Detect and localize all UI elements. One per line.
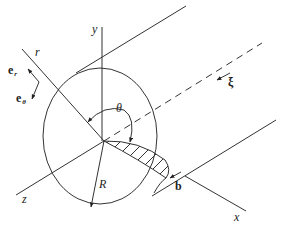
r-axis-label: r: [35, 45, 40, 59]
line-direction-label: ξ: [228, 75, 234, 89]
theta-label: θ: [116, 101, 122, 115]
unit-vector-r-label: er: [8, 63, 17, 78]
z-axis-label: z: [21, 192, 27, 206]
x-axis: [185, 176, 246, 211]
r-axis: [22, 49, 104, 141]
burgers-vector-arrow: [170, 172, 181, 178]
x-axis-label: x: [233, 210, 240, 224]
y-axis-label: y: [91, 22, 98, 36]
z-axis: [16, 141, 104, 195]
radius-arrow: [91, 141, 104, 207]
unit-vector-r-arrow: [28, 69, 39, 82]
burgers-vector-label: b: [175, 179, 182, 193]
dislocation-cylinder-diagram: y r θ R z x b ξ er eθ: [0, 0, 282, 229]
theta-arc: [88, 109, 132, 143]
cylinder-bottom-line: [152, 120, 276, 196]
unit-vector-theta-arrow: [32, 82, 39, 99]
dislocation-line-dashed: [104, 43, 262, 141]
radius-label: R: [98, 177, 107, 191]
unit-vector-theta-label: eθ: [16, 91, 26, 106]
slip-surface-hatching: [100, 132, 174, 178]
slip-surface: [104, 141, 169, 178]
cylinder-top-line: [76, 6, 186, 73]
